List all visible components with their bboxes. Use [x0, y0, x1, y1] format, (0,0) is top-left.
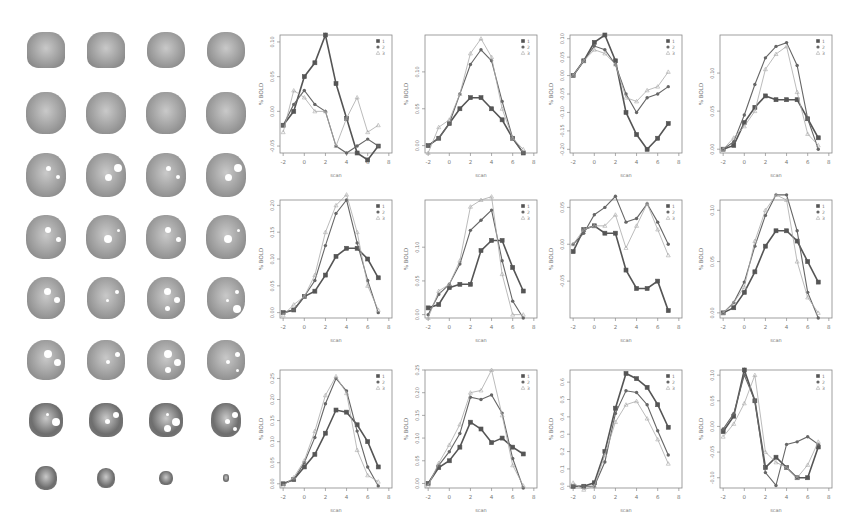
data-point-marker	[500, 118, 504, 122]
legend-label: 3	[672, 386, 675, 391]
brain-slice	[86, 215, 126, 259]
y-tick-label: 0.00	[559, 70, 565, 81]
brain-slice	[86, 92, 126, 134]
legend-marker-1	[816, 204, 820, 208]
data-point-marker	[500, 238, 504, 242]
data-point-marker	[645, 96, 648, 99]
data-point-marker	[490, 238, 494, 242]
y-tick-label: 0.20	[269, 200, 275, 211]
x-tick-label: 8	[827, 324, 831, 330]
bold-timecourse-chart: -2024680.000.050.10scan% BOLD123	[395, 165, 543, 335]
activation-blob	[237, 229, 240, 232]
data-point-marker	[458, 445, 462, 449]
y-tick-label: 0.15	[269, 227, 275, 238]
y-tick-label: 0.00	[709, 421, 715, 432]
y-tick-label: 0.25	[414, 364, 420, 375]
y-tick-label: 0.10	[414, 242, 420, 253]
data-point-marker	[743, 373, 746, 376]
activation-blob	[174, 297, 180, 303]
brain-slice	[206, 92, 246, 134]
legend-marker-1	[666, 39, 670, 43]
y-tick-label: 0.10	[709, 67, 715, 78]
series-line-3	[573, 204, 668, 256]
brain-slice	[86, 153, 126, 197]
x-tick-label: 8	[387, 324, 391, 330]
y-tick-label: 0.10	[269, 36, 275, 47]
bold-timecourse-chart-grid: -202468-0.050.000.050.10scan% BOLD123-20…	[250, 0, 844, 517]
activation-blob	[164, 288, 171, 295]
bold-timecourse-chart: -2024680.000.050.100.150.200.25scan% BOL…	[250, 335, 398, 505]
legend-marker-2	[666, 45, 669, 48]
data-point-marker	[593, 213, 596, 216]
legend-marker-2	[521, 45, 524, 48]
legend-label: 1	[672, 374, 675, 379]
legend-marker-2	[376, 210, 379, 213]
y-tick-label: 0.0	[559, 482, 565, 490]
series-line-1	[723, 370, 818, 478]
legend-label: 3	[672, 51, 675, 56]
data-point-marker	[656, 403, 660, 407]
x-tick-label: 8	[677, 324, 681, 330]
x-tick-label: 8	[532, 494, 536, 500]
data-point-marker	[656, 220, 659, 223]
brain-slice	[89, 403, 123, 437]
data-point-marker	[522, 486, 525, 489]
x-tick-label: -2	[425, 494, 430, 500]
y-tick-label: -0.05	[559, 275, 565, 288]
data-point-marker	[785, 229, 789, 233]
legend-label: 2	[527, 45, 530, 50]
legend-marker-3	[521, 216, 525, 219]
brain-slice	[146, 92, 186, 134]
activation-blob	[235, 290, 239, 294]
data-point-marker	[667, 85, 670, 88]
activation-blob	[226, 299, 229, 302]
series-line-1	[573, 35, 668, 149]
y-tick-label: -0.05	[709, 446, 715, 459]
data-point-marker	[458, 432, 461, 435]
data-point-marker	[613, 231, 617, 235]
data-point-marker	[313, 61, 317, 65]
y-tick-label: 0.1	[559, 465, 565, 473]
data-point-marker	[500, 436, 504, 440]
data-point-marker	[292, 103, 295, 106]
y-tick-label: 0.6	[559, 378, 565, 386]
data-point-marker	[511, 445, 515, 449]
activation-blob	[114, 164, 122, 172]
y-axis-label: % BOLD	[698, 248, 704, 270]
data-point-marker	[785, 98, 789, 102]
data-point-marker	[447, 459, 451, 463]
series-line-1	[283, 248, 378, 312]
data-point-marker	[795, 64, 798, 67]
activation-blob	[176, 175, 180, 179]
series-line-2	[428, 50, 523, 153]
brain-slice	[207, 340, 245, 380]
data-point-marker	[774, 484, 777, 487]
data-point-marker	[806, 435, 809, 438]
activation-blob	[166, 166, 171, 171]
x-tick-label: 0	[593, 494, 597, 500]
data-point-marker	[313, 452, 317, 456]
activation-blob	[54, 359, 61, 366]
brain-slice	[87, 277, 125, 319]
y-tick-label: -0.05	[559, 88, 565, 101]
x-tick-label: -2	[570, 494, 575, 500]
plot-frame	[280, 370, 392, 488]
series-line-2	[428, 395, 523, 488]
data-point-marker	[656, 92, 659, 95]
legend-label: 3	[382, 51, 385, 56]
x-tick-label: 2	[324, 324, 328, 330]
activation-blob	[115, 290, 119, 294]
data-point-marker	[522, 151, 525, 154]
legend-marker-2	[816, 45, 819, 48]
legend-label: 3	[822, 51, 825, 56]
data-point-marker	[774, 45, 777, 48]
data-point-marker	[645, 403, 648, 406]
x-tick-label: 6	[366, 494, 370, 500]
activation-blob	[44, 288, 51, 295]
y-tick-label: 0.00	[709, 307, 715, 318]
data-point-marker	[345, 246, 349, 250]
x-tick-label: -2	[720, 494, 725, 500]
legend-label: 2	[382, 210, 385, 215]
y-tick-label: 0.5	[559, 396, 565, 404]
data-point-marker	[468, 420, 472, 424]
